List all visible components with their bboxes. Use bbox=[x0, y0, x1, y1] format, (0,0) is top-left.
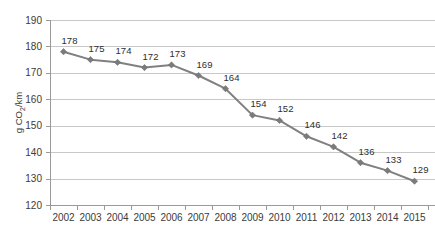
data-point-label: 178 bbox=[62, 35, 78, 46]
y-tick-label: 160 bbox=[25, 94, 42, 105]
x-tick-label: 2008 bbox=[214, 212, 237, 223]
x-tick-label: 2004 bbox=[106, 212, 129, 223]
x-tick-label: 2014 bbox=[376, 212, 399, 223]
data-point-marker bbox=[168, 62, 174, 68]
x-tick-label: 2006 bbox=[160, 212, 183, 223]
data-point-label: 175 bbox=[89, 43, 105, 54]
data-point-label: 154 bbox=[251, 98, 267, 109]
data-point-marker bbox=[87, 57, 93, 63]
x-axis bbox=[50, 206, 435, 210]
data-point-label: 164 bbox=[224, 72, 240, 83]
y-axis-title-text: g CO2/km bbox=[13, 92, 26, 133]
x-tick-label: 2007 bbox=[187, 212, 210, 223]
data-point-label: 136 bbox=[359, 146, 375, 157]
x-tick-label: 2009 bbox=[241, 212, 264, 223]
data-point-label: 146 bbox=[305, 119, 321, 130]
data-point-label: 174 bbox=[116, 45, 132, 56]
data-point-label: 129 bbox=[413, 164, 429, 175]
data-point-marker bbox=[114, 59, 120, 65]
y-tick-labels: 120130140150160170180190 bbox=[25, 15, 42, 211]
data-point-label: 133 bbox=[386, 154, 402, 165]
y-tick-label: 140 bbox=[25, 147, 42, 158]
x-tick-label: 2003 bbox=[79, 212, 102, 223]
data-point-marker bbox=[141, 64, 147, 70]
x-tick-labels: 2002200320042005200620072008200920102011… bbox=[52, 212, 426, 223]
data-point-label: 169 bbox=[197, 59, 213, 70]
x-tick-label: 2015 bbox=[403, 212, 426, 223]
y-axis-title: g CO2/km bbox=[13, 92, 26, 133]
data-point-labels: 1781751741721731691641541521461421361331… bbox=[62, 35, 429, 176]
y-tick-label: 130 bbox=[25, 173, 42, 184]
data-point-label: 172 bbox=[143, 51, 159, 62]
data-point-marker bbox=[60, 49, 66, 55]
data-point-label: 152 bbox=[278, 103, 294, 114]
y-tick-label: 150 bbox=[25, 120, 42, 131]
x-tick-label: 2002 bbox=[52, 212, 75, 223]
chart-container: g CO2/km 120130140150160170180190 200220… bbox=[0, 0, 435, 230]
y-tick-label: 170 bbox=[25, 67, 42, 78]
x-tick-label: 2012 bbox=[322, 212, 345, 223]
x-tick-label: 2005 bbox=[133, 212, 156, 223]
data-point-label: 142 bbox=[332, 130, 348, 141]
gridlines bbox=[50, 21, 435, 206]
y-axis bbox=[46, 20, 51, 206]
x-tick-label: 2013 bbox=[349, 212, 372, 223]
line-chart: g CO2/km 120130140150160170180190 200220… bbox=[0, 0, 435, 230]
y-tick-label: 180 bbox=[25, 41, 42, 52]
data-point-label: 173 bbox=[170, 48, 186, 59]
x-tick-label: 2010 bbox=[268, 212, 291, 223]
y-tick-label: 120 bbox=[25, 200, 42, 211]
x-tick-label: 2011 bbox=[296, 212, 318, 223]
data-point-marker bbox=[384, 168, 390, 174]
y-tick-label: 190 bbox=[25, 15, 42, 26]
